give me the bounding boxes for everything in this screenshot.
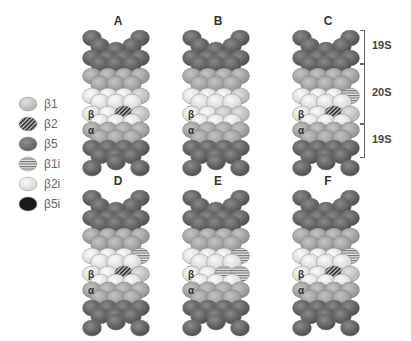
bracket-19s [360,124,365,158]
legend-item: β1 [18,96,78,112]
beta-ring-label: β [188,269,194,280]
beta-ring-label: β [88,269,94,280]
beta-ring-label: β [88,109,94,120]
legend-label: β2 [44,116,58,132]
legend-item: β5 [18,136,78,152]
alpha-ring-label: α [188,285,195,296]
alpha-ring-label: α [298,125,305,136]
proteasome-diagram: βα [290,30,370,190]
proteasome-diagram: βα [290,190,370,341]
legend-label: β2i [44,176,60,192]
bracket-19s [360,30,365,64]
panel-d: Dβα [80,174,160,324]
panel-label: C [318,14,338,28]
bracket-label: 20S [372,86,392,98]
panel-a: Aβα [80,14,160,164]
bracket-20s [360,64,365,124]
panel-f: Fβα [290,174,370,324]
bracket-label: 19S [372,39,392,51]
alpha-ring-label: α [188,125,195,136]
panel-e: Eβα [180,174,260,324]
legend-item: β2i [18,176,78,192]
beta-ring-label: β [298,109,304,120]
legend-swatch-icon [18,116,40,132]
legend-label: β5i [44,196,60,212]
panel-label: E [208,174,228,188]
legend-label: β1i [44,156,60,172]
legend-swatch-icon [18,176,40,192]
panel-label: D [108,174,128,188]
legend-item: β2 [18,116,78,132]
legend-swatch-icon [18,196,40,212]
proteasome-diagram: βα [180,190,260,341]
proteasome-diagram: βα [180,30,260,190]
legend-item: β5i [18,196,78,212]
legend-label: β1 [44,96,58,112]
panel-label: B [208,14,228,28]
panel-b: Bβα [180,14,260,164]
beta-ring-label: β [298,269,304,280]
legend-label: β5 [44,136,58,152]
alpha-ring-label: α [298,285,305,296]
proteasome-diagram: βα [80,30,160,190]
panel-label: A [108,14,128,28]
legend-item: β1i [18,156,78,172]
proteasome-diagram: βα [80,190,160,341]
legend-swatch-icon [18,156,40,172]
bracket-label: 19S [372,133,392,145]
beta-ring-label: β [188,109,194,120]
panel-c: Cβα [290,14,370,164]
panel-label: F [318,174,338,188]
legend-swatch-icon [18,136,40,152]
legend-swatch-icon [18,96,40,112]
alpha-ring-label: α [88,125,95,136]
alpha-ring-label: α [88,285,95,296]
